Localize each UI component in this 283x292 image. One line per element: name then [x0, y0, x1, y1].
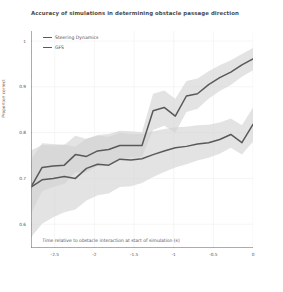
legend-item-steering-dynamics[interactable]: Steering Dynamics: [43, 33, 123, 42]
y-tick-label: 1: [12, 39, 26, 44]
x-tick-label: -2: [86, 252, 102, 257]
x-tick-label: -2.5: [47, 252, 63, 257]
plot-canvas: [31, 31, 253, 248]
chart-legend: Steering Dynamics GFS: [43, 33, 123, 53]
plot-area: Steering Dynamics GFS: [31, 31, 253, 248]
legend-label-steering-dynamics: Steering Dynamics: [55, 35, 98, 40]
y-tick-label: 0.6: [12, 222, 26, 227]
chart-title: Accuracy of simulations in determining o…: [31, 9, 241, 17]
legend-swatch-gfs: [43, 47, 52, 49]
chart-figure: Accuracy of simulations in determining o…: [0, 0, 283, 292]
x-tick-label: -1: [166, 252, 182, 257]
x-axis-label: Time relative to obstacle interaction at…: [0, 238, 222, 243]
y-tick-label: 0.8: [12, 130, 26, 135]
y-tick-label: 0.7: [12, 176, 26, 181]
x-tick-label: -0.5: [205, 252, 221, 257]
x-tick-label: 0: [245, 252, 261, 257]
y-tick-label: 0.9: [12, 84, 26, 89]
legend-item-gfs[interactable]: GFS: [43, 43, 123, 52]
y-axis-label: Proportion correct: [1, 62, 6, 136]
legend-swatch-steering-dynamics: [43, 37, 52, 39]
legend-label-gfs: GFS: [55, 45, 64, 50]
x-tick-label: -1.5: [126, 252, 142, 257]
